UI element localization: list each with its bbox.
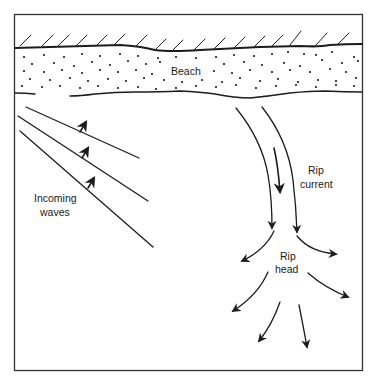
- incoming-waves: [18, 107, 153, 247]
- rip-head-arrows: [233, 231, 348, 347]
- rip-current-label-line1: Rip: [308, 164, 324, 176]
- wave-direction-arrow-1: [80, 122, 86, 132]
- rip-head-label-line1: Rip: [280, 250, 296, 262]
- incoming-waves-label-line2: waves: [39, 206, 70, 218]
- wave-direction-arrow-2: [82, 148, 88, 158]
- wave-direction-arrow-3: [88, 178, 94, 188]
- rip-current-diagram: Beach Incoming waves Rip current Rip hea…: [0, 0, 376, 380]
- rip-head-label-line2: head: [275, 263, 299, 275]
- beach-label: Beach: [171, 65, 201, 77]
- incoming-waves-label-line1: Incoming: [34, 192, 77, 204]
- water-edge: [15, 91, 362, 98]
- rip-current-arrows: [236, 107, 297, 232]
- rip-current-label-line2: current: [300, 178, 333, 190]
- shoreline: [15, 44, 362, 51]
- land-hatching: [20, 31, 349, 51]
